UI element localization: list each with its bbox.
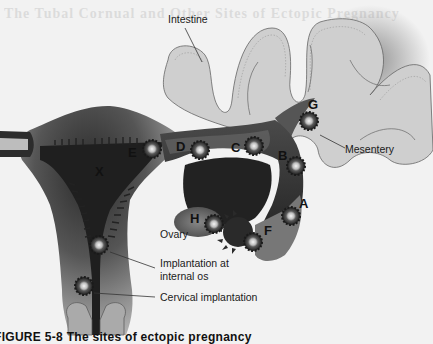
- implant-site-internal-os: [90, 236, 108, 254]
- implant-site-cervical: [75, 277, 93, 295]
- site-letter-G: G: [308, 97, 318, 112]
- implant-site-A: [282, 207, 300, 225]
- site-letter-X: X: [95, 164, 104, 179]
- implant-site-D: [191, 141, 209, 159]
- implant-site-F: [244, 233, 262, 251]
- label-implantation-internal-os-2: internal os: [160, 270, 208, 282]
- label-implantation-internal-os-1: Implantation at: [160, 257, 229, 269]
- site-letter-F: F: [264, 223, 272, 238]
- site-letter-E: E: [128, 145, 137, 160]
- implant-site-G: [300, 112, 318, 130]
- implant-site-C: [245, 137, 263, 155]
- implant-site-E: [143, 140, 161, 158]
- implant-site-H: [205, 215, 223, 233]
- site-letter-A: A: [299, 196, 308, 211]
- site-letter-C: C: [231, 140, 240, 155]
- label-cervical-implantation: Cervical implantation: [160, 291, 257, 303]
- left-tube-lumen: [0, 138, 28, 150]
- site-letter-H: H: [190, 211, 199, 226]
- site-letter-D: D: [176, 139, 185, 154]
- figure-caption: FIGURE 5-8 The sites of ectopic pregnanc…: [0, 330, 252, 344]
- label-mesentery: Mesentery: [345, 143, 394, 155]
- site-letter-B: B: [278, 148, 287, 163]
- label-intestine: Intestine: [168, 13, 208, 25]
- label-ovary: Ovary: [160, 228, 188, 240]
- implant-site-B: [287, 157, 305, 175]
